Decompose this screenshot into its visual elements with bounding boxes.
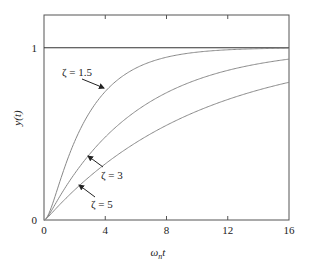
annotation-arrow-icon (82, 79, 104, 88)
curve-zeta-5 (44, 82, 289, 220)
y-tick-label: 1 (32, 42, 38, 54)
annotation-zeta: ζ = 1.5 (62, 66, 104, 88)
annotation-arrow-icon (88, 156, 103, 167)
annotation-arrow-icon (79, 185, 95, 197)
y-axis-label: y(t) (11, 110, 24, 127)
annotation-zeta: ζ = 5 (79, 185, 113, 211)
annotations: ζ = 1.5ζ = 3ζ = 5 (62, 66, 123, 211)
step-response-chart: 048121601 ζ = 1.5ζ = 3ζ = 5 y(t) ωnt (0, 0, 310, 264)
x-tick-label: 4 (103, 224, 109, 236)
x-axis-label-tail: t (162, 246, 166, 258)
x-tick-label: 12 (222, 224, 233, 236)
x-axis-label: ωnt (151, 246, 167, 261)
plot-area: 048121601 (32, 15, 296, 236)
x-tick-label: 0 (41, 224, 47, 236)
y-tick-label: 0 (32, 214, 38, 226)
x-tick-label: 16 (284, 224, 296, 236)
annotation-label: ζ = 1.5 (62, 66, 93, 79)
axes-labels: y(t) ωnt (11, 110, 166, 261)
annotation-zeta: ζ = 3 (88, 156, 123, 182)
plot-frame (44, 15, 289, 220)
curve-zeta-3 (44, 59, 289, 220)
annotation-label: ζ = 5 (91, 198, 113, 211)
x-tick-label: 8 (164, 224, 170, 236)
annotation-label: ζ = 3 (101, 169, 123, 182)
